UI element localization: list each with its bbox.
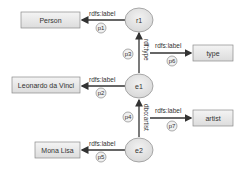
edge-tag-p1: p1 <box>98 25 105 31</box>
edge-tag-p3: p3 <box>125 51 132 57</box>
edge-p2: rdfs:label p2 <box>82 76 125 98</box>
literal-label-artist: artist <box>205 115 220 122</box>
node-e1: e1 <box>125 74 153 98</box>
edge-p6: rdfs:label p6 <box>150 42 191 66</box>
literal-leonardo: Leonardo da Vinci <box>12 77 80 93</box>
edge-label-p5: rdfs:label <box>89 140 116 147</box>
edge-p4: dbo:artist p4 <box>123 100 150 137</box>
edge-tag-p5: p5 <box>98 154 105 160</box>
node-e2: e2 <box>125 138 153 162</box>
edge-tag-p2: p2 <box>98 90 105 96</box>
edge-p5: rdfs:label p5 <box>82 140 125 162</box>
literal-monalisa: Mona Lisa <box>35 142 80 158</box>
edge-label-p6: rdfs:label <box>155 42 182 49</box>
rdf-graph-diagram: rdfs:label p1 rdf:type p3 rdfs:label p6 … <box>0 0 246 171</box>
literal-label-leonardo: Leonardo da Vinci <box>18 82 75 89</box>
edge-p1: rdfs:label p1 <box>82 10 125 33</box>
edge-tag-p7: p7 <box>169 123 176 129</box>
node-label-e2: e2 <box>135 147 143 154</box>
literal-person: Person <box>21 12 80 28</box>
edge-label-p3: rdf:type <box>142 39 150 61</box>
edge-tag-p4: p4 <box>125 114 132 120</box>
edge-p3: rdf:type p3 <box>123 33 150 73</box>
edge-label-p4: dbo:artist <box>143 104 150 131</box>
literal-type: type <box>193 45 233 61</box>
literal-label-person: Person <box>39 17 61 24</box>
edge-p7: rdfs:label p7 <box>150 107 191 131</box>
literal-label-type: type <box>206 50 219 58</box>
edge-tag-p6: p6 <box>169 58 176 64</box>
edge-label-p1: rdfs:label <box>89 10 116 17</box>
edge-label-p7: rdfs:label <box>155 107 182 114</box>
node-label-e1: e1 <box>135 83 143 90</box>
literal-artist: artist <box>193 110 233 126</box>
node-r1: r1 <box>125 8 153 32</box>
node-label-r1: r1 <box>136 17 142 24</box>
edge-label-p2: rdfs:label <box>89 76 116 83</box>
literal-label-monalisa: Mona Lisa <box>41 147 73 154</box>
